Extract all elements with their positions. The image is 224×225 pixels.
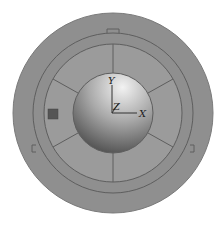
x-axis-label: X bbox=[138, 108, 147, 119]
y-axis-label: Y bbox=[108, 75, 116, 86]
z-axis-label: Z bbox=[112, 101, 121, 112]
